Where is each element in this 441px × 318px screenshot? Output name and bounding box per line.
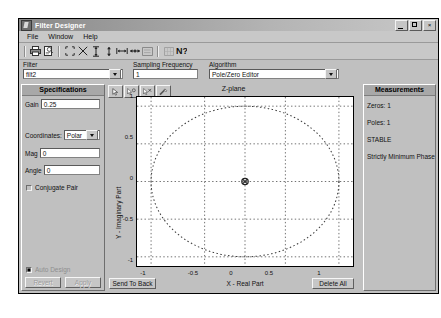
auto-design-label: Auto Design — [35, 266, 70, 273]
gain-label: Gain — [25, 101, 39, 108]
x-tick-0.5: 0.5 — [262, 270, 276, 276]
y-tick--0.5: -0.5 — [119, 216, 133, 222]
window-title: Filter Designer — [35, 22, 395, 29]
menu-file[interactable]: File — [22, 31, 43, 42]
measurements-panel: Measurements Zeros: 1 Poles: 1 STABLE St… — [363, 84, 436, 291]
conjugate-pair-label: Conjugate Pair — [35, 184, 78, 191]
algorithm-field: Algorithm Pole/Zero Editor — [209, 61, 339, 79]
pole-zero-plot-panel: Z-plane Y - Imaginary Part 1 0.5 0 -0.5 … — [107, 84, 360, 291]
toolbar-separator — [24, 46, 26, 57]
pan-horizontal-icon[interactable] — [115, 45, 128, 58]
x-tick--0.5: -0.5 — [186, 270, 200, 276]
algorithm-label: Algorithm — [209, 61, 339, 68]
auto-design-checkbox[interactable] — [26, 267, 32, 273]
toolbar-separator — [58, 46, 60, 57]
menu-bar: File Window Help — [19, 31, 438, 43]
measurements-title: Measurements — [364, 85, 435, 96]
grid-icon[interactable] — [162, 45, 175, 58]
context-help-icon[interactable]: N? — [175, 45, 188, 58]
send-to-back-button[interactable]: Send To Back — [109, 278, 156, 289]
angle-input[interactable]: 0 — [44, 165, 100, 175]
x-tick-0: 0 — [224, 270, 238, 276]
revert-button[interactable]: Revert — [25, 277, 61, 288]
coordinates-value: Polar — [65, 132, 85, 139]
menu-window[interactable]: Window — [43, 31, 78, 42]
filter-dropdown-arrow[interactable] — [109, 69, 121, 79]
zoom-fullview-icon[interactable] — [76, 45, 89, 58]
mag-label: Mag — [25, 150, 38, 157]
conjugate-pair-checkbox[interactable] — [26, 185, 32, 191]
filter-value: filt2 — [24, 71, 108, 78]
menu-help[interactable]: Help — [78, 31, 102, 42]
conjugate-pair-row[interactable]: Conjugate Pair — [26, 184, 78, 191]
y-tick-0.5: 0.5 — [119, 134, 133, 140]
coordinates-row: Coordinates: Polar — [25, 130, 100, 140]
selector-row: Filter filt2 Sampling Frequency 1 Algori… — [19, 60, 438, 86]
close-button[interactable]: × — [423, 20, 436, 31]
gain-row: Gain 0.25 — [25, 99, 100, 109]
sampling-frequency-field: Sampling Frequency 1 — [133, 61, 198, 79]
maximize-button[interactable] — [409, 20, 422, 31]
specifications-title: Specifications — [22, 85, 104, 96]
toolbar-separator — [157, 46, 159, 57]
coordinates-label: Coordinates: — [25, 132, 62, 139]
measurement-stable: STABLE — [364, 136, 435, 143]
zoom-y-icon[interactable] — [89, 45, 102, 58]
minimize-button[interactable] — [395, 20, 408, 31]
toolbar: N? — [19, 43, 438, 60]
angle-label: Angle — [25, 167, 42, 174]
x-tick--1: -1 — [136, 270, 150, 276]
print-icon[interactable] — [29, 45, 42, 58]
filter-app-icon — [21, 20, 32, 31]
y-tick--1: -1 — [119, 257, 133, 263]
z-plane-svg — [137, 97, 353, 266]
mag-row: Mag 0 — [25, 148, 100, 158]
specifications-panel: Specifications Gain 0.25 Coordinates: Po… — [21, 84, 105, 291]
x-tick-1: 1 — [312, 270, 326, 276]
main-area: Specifications Gain 0.25 Coordinates: Po… — [19, 84, 438, 293]
apply-button[interactable]: Apply — [65, 277, 101, 288]
mag-input[interactable]: 0 — [40, 148, 100, 158]
gain-input[interactable]: 0.25 — [41, 99, 100, 109]
zoom-box-icon[interactable] — [63, 45, 76, 58]
measurement-zeros: Zeros: 1 — [364, 102, 435, 109]
measurement-poles: Poles: 1 — [364, 119, 435, 126]
zoom-x-icon[interactable] — [102, 45, 115, 58]
measurement-phase: Strictly Minimum Phase — [364, 153, 435, 160]
coordinates-combobox[interactable]: Polar — [64, 130, 100, 140]
y-axis-label: Y - Imaginary Part — [115, 187, 122, 239]
sampling-frequency-label: Sampling Frequency — [133, 61, 198, 68]
algorithm-value: Pole/Zero Editor — [210, 71, 324, 78]
filter-combobox[interactable]: filt2 — [23, 69, 123, 79]
filter-designer-window: Filter Designer × File Window Help — [18, 18, 439, 294]
algorithm-dropdown-arrow[interactable] — [325, 69, 337, 79]
legend-icon[interactable] — [141, 45, 154, 58]
y-tick-1: 1 — [119, 93, 133, 99]
svg-text:N?: N? — [176, 46, 187, 56]
print-preview-icon[interactable] — [42, 45, 55, 58]
coordinates-dropdown-arrow[interactable] — [86, 130, 98, 140]
delete-all-button[interactable]: Delete All — [312, 278, 354, 289]
y-tick-0: 0 — [119, 175, 133, 181]
z-plane-axes[interactable] — [136, 96, 354, 267]
sampling-frequency-input[interactable]: 1 — [133, 69, 198, 79]
window-controls: × — [395, 20, 436, 31]
pan-marker-icon[interactable] — [128, 45, 141, 58]
angle-row: Angle 0 — [25, 165, 100, 175]
algorithm-combobox[interactable]: Pole/Zero Editor — [209, 69, 339, 79]
filter-label: Filter — [23, 61, 123, 68]
plot-title: Z-plane — [107, 85, 360, 92]
title-bar: Filter Designer × — [19, 19, 438, 31]
filter-field: Filter filt2 — [23, 61, 123, 79]
auto-design-row[interactable]: Auto Design — [26, 266, 70, 273]
